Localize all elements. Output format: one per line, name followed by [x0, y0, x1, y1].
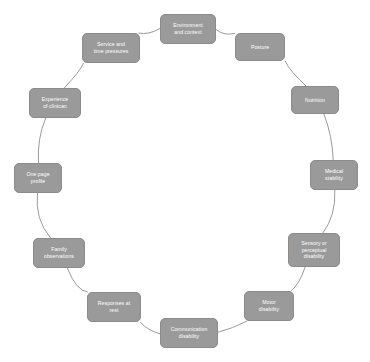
connector-responses-at-rest-to-family-observations	[67, 268, 87, 292]
cycle-diagram: Environment and contextPostureNutritionM…	[0, 0, 370, 362]
node-responses-at-rest[interactable]: Responses at rest	[87, 292, 141, 322]
connector-service-and-time-pressures-to-environment-and-context	[138, 28, 160, 33]
connector-posture-to-nutrition	[285, 61, 306, 86]
node-experience-of-clinician[interactable]: Experience of clinican	[29, 88, 81, 118]
connector-family-observations-to-one-page-profile	[37, 193, 51, 238]
connector-medical-stability-to-sensory-or-perceptual-disability	[323, 190, 335, 233]
node-motor-disability[interactable]: Motor disability	[244, 291, 294, 321]
node-environment-and-context[interactable]: Environment and context	[160, 14, 216, 44]
connector-motor-disability-to-communication-disability	[218, 321, 247, 332]
node-communication-disability[interactable]: Communication disability	[160, 318, 218, 348]
connector-environment-and-context-to-posture	[216, 30, 235, 35]
node-one-page-profile[interactable]: One page profile	[14, 163, 62, 193]
node-family-observations[interactable]: Family observations	[33, 238, 85, 268]
node-nutrition[interactable]: Nutrition	[291, 86, 339, 114]
node-service-and-time-pressures[interactable]: Service and time pressures	[82, 33, 140, 63]
connector-communication-disability-to-responses-at-rest	[140, 322, 160, 334]
connector-sensory-or-perceptual-disability-to-motor-disability	[291, 267, 305, 291]
connector-one-page-profile-to-experience-of-clinician	[38, 118, 45, 163]
node-sensory-or-perceptual-disability[interactable]: Sensory or perceptual disability	[288, 233, 340, 267]
connector-experience-of-clinician-to-service-and-time-pressures	[64, 63, 83, 88]
node-medical-stability[interactable]: Medical stability	[310, 160, 358, 190]
connector-nutrition-to-medical-stability	[324, 114, 333, 160]
node-posture[interactable]: Posture	[235, 33, 285, 61]
